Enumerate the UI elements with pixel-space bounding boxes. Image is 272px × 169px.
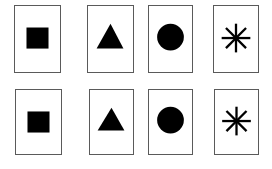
card-triangle-row1 — [87, 5, 134, 73]
triangle-icon — [88, 6, 133, 72]
square-icon — [15, 6, 60, 72]
card-asterisk-row1 — [213, 5, 259, 73]
card-square-row2 — [15, 89, 62, 155]
card-circle-row2 — [148, 89, 193, 155]
asterisk-icon — [215, 90, 258, 154]
card-triangle-row2 — [89, 89, 134, 155]
asterisk-icon — [214, 6, 258, 72]
triangle-icon — [90, 90, 133, 154]
circle-icon — [149, 6, 192, 72]
card-circle-row1 — [148, 5, 193, 73]
card-asterisk-row2 — [214, 89, 259, 155]
square-icon — [16, 90, 61, 154]
circle-icon — [149, 90, 192, 154]
card-square-row1 — [14, 5, 61, 73]
